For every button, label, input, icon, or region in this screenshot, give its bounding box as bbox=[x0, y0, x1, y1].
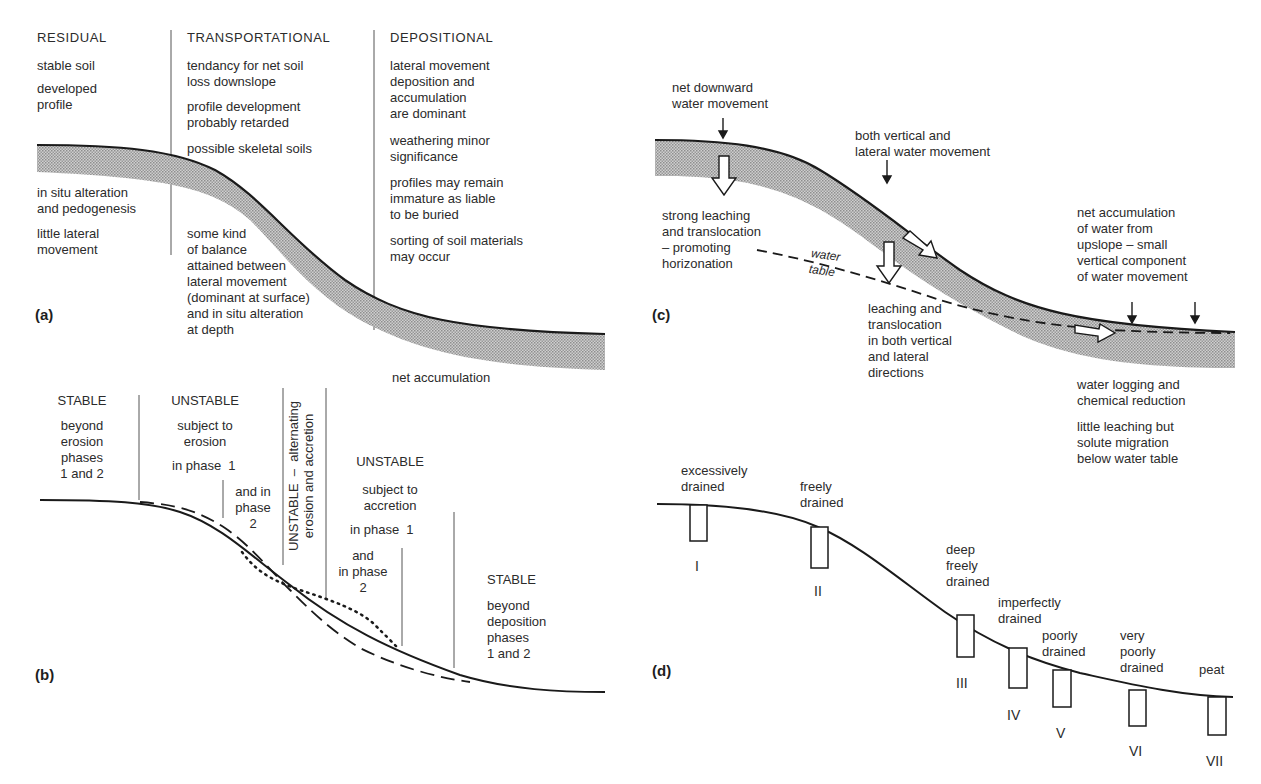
soil-profile-pits bbox=[690, 505, 1226, 735]
heading-transportational: TRANSPORTATIONAL bbox=[187, 30, 330, 46]
zone5-heading: STABLE bbox=[487, 572, 536, 588]
panel-label-b: (b) bbox=[35, 666, 54, 683]
note-leaching-both: leaching and translocation in both verti… bbox=[868, 301, 952, 381]
profile-numeral-6: VI bbox=[1129, 743, 1142, 759]
note-in-situ-alteration: in situ alteration and pedogenesis bbox=[37, 185, 136, 217]
note-net-soil-loss: tendancy for net soil loss downslope bbox=[187, 58, 303, 90]
profile-numeral-3: III bbox=[956, 675, 968, 691]
label-deep-freely-drained: deep freely drained bbox=[946, 542, 989, 590]
zone3-vertical-label: UNSTABLE – alternating erosion and accre… bbox=[286, 386, 316, 566]
note-net-accumulation-water: net accumulation of water from upslope –… bbox=[1077, 205, 1188, 285]
zone2-phase1: in phase 1 bbox=[172, 458, 236, 474]
note-lateral-deposition: lateral movement deposition and accumula… bbox=[390, 58, 490, 122]
note-skeletal-soils: possible skeletal soils bbox=[187, 141, 312, 157]
zone2-phase2: and in phase 2 bbox=[228, 484, 278, 532]
zone1-heading: STABLE bbox=[42, 393, 122, 409]
label-very-poorly-drained: very poorly drained bbox=[1120, 628, 1163, 676]
zone2-heading: UNSTABLE bbox=[160, 393, 250, 409]
profile-numeral-2: II bbox=[814, 583, 822, 599]
profile-numeral-5: V bbox=[1056, 725, 1065, 741]
heading-residual: RESIDUAL bbox=[37, 30, 107, 46]
note-strong-leaching: strong leaching and translocation – prom… bbox=[662, 208, 761, 272]
profile-numeral-1: I bbox=[695, 558, 699, 574]
label-imperfectly-drained: imperfectly drained bbox=[998, 595, 1061, 627]
zone4-heading: UNSTABLE bbox=[340, 454, 440, 470]
label-excessively-drained: excessively drained bbox=[681, 463, 747, 495]
profile-numeral-7: VII bbox=[1206, 753, 1223, 769]
zone4-text: subject to accretion bbox=[340, 482, 440, 514]
note-both-vertical-lateral: both vertical and lateral water movement bbox=[855, 128, 990, 160]
profile-numeral-4: IV bbox=[1007, 707, 1020, 723]
note-little-lateral-movement: little lateral movement bbox=[37, 226, 99, 258]
note-water-logging: water logging and chemical reduction bbox=[1077, 377, 1185, 409]
label-poorly-drained: poorly drained bbox=[1042, 628, 1085, 660]
label-water-table: water table bbox=[808, 245, 842, 281]
note-little-leaching: little leaching but solute migration bel… bbox=[1077, 419, 1178, 467]
zone5-text: beyond deposition phases 1 and 2 bbox=[487, 598, 546, 662]
present-surface-line bbox=[40, 500, 605, 692]
note-balance: some kind of balance attained between la… bbox=[187, 226, 310, 338]
panel-d-graphics bbox=[657, 504, 1233, 735]
label-freely-drained: freely drained bbox=[800, 479, 843, 511]
note-profile-retarded: profile development probably retarded bbox=[187, 99, 300, 131]
panel-label-c: (c) bbox=[652, 306, 670, 323]
note-net-accumulation: net accumulation bbox=[392, 370, 490, 386]
zone4-phase1: in phase 1 bbox=[350, 522, 414, 538]
note-weathering-minor: weathering minor significance bbox=[390, 133, 490, 165]
note-developed-profile: developed profile bbox=[37, 81, 97, 113]
note-net-downward: net downward water movement bbox=[672, 80, 768, 112]
panel-label-a: (a) bbox=[35, 306, 53, 323]
label-peat: peat bbox=[1199, 662, 1224, 678]
zone1-text: beyond erosion phases 1 and 2 bbox=[42, 418, 122, 482]
zone2-text: subject to erosion bbox=[160, 418, 250, 450]
zone4-phase2: and in phase 2 bbox=[328, 548, 398, 596]
note-stable-soil: stable soil bbox=[37, 58, 95, 74]
heading-depositional: DEPOSITIONAL bbox=[390, 30, 493, 46]
note-sorting-materials: sorting of soil materials may occur bbox=[390, 233, 523, 265]
note-profiles-immature: profiles may remain immature as liable t… bbox=[390, 175, 503, 223]
panel-label-d: (d) bbox=[652, 662, 671, 679]
